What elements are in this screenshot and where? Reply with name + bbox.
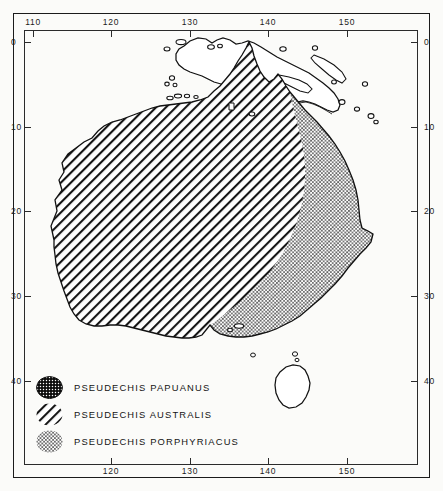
tick-label-right-10: 10: [424, 122, 435, 132]
tick-label-right-30: 30: [424, 291, 435, 301]
legend-item-porphyriacus: PSEUDECHIS PORPHYRIACUS: [36, 428, 276, 455]
tick-label-left-40: 40: [11, 376, 22, 386]
swatch-papuanus: [36, 376, 63, 399]
tick-label-top-120: 120: [103, 17, 119, 27]
swatch-porphyriacus: [36, 430, 63, 453]
tick-label-right-20: 20: [424, 206, 435, 216]
tick-label-top-140: 140: [260, 17, 276, 27]
legend-label-porphyriacus: PSEUDECHIS PORPHYRIACUS: [74, 436, 239, 447]
tick-label-right-40: 40: [424, 376, 435, 386]
tick-label-top-130: 130: [182, 17, 198, 27]
tick-label-bottom-150: 150: [339, 466, 355, 476]
tick-label-bottom-130: 130: [182, 466, 198, 476]
tick-label-top-150: 150: [339, 17, 355, 27]
tick-label-left-20: 20: [11, 206, 22, 216]
tasmania-outline: [275, 365, 310, 408]
tick-label-bottom-140: 140: [260, 466, 276, 476]
tick-label-right-0: 0: [424, 37, 429, 47]
legend-label-australis: PSEUDECHIS AUSTRALIS: [74, 409, 212, 420]
tick-label-left-30: 30: [11, 291, 22, 301]
bass-strait-islands: [251, 352, 299, 362]
legend-item-australis: PSEUDECHIS AUSTRALIS: [36, 401, 276, 428]
legend-label-papuanus: PSEUDECHIS PAPUANUS: [74, 382, 210, 393]
tick-label-left-0: 0: [11, 37, 16, 47]
gulf-notch: [229, 103, 234, 110]
swatch-australis: [36, 403, 63, 426]
map-legend: PSEUDECHIS PAPUANUS PSEUDECHIS AUSTRALIS…: [36, 374, 276, 455]
legend-item-papuanus: PSEUDECHIS PAPUANUS: [36, 374, 276, 401]
tick-label-bottom-120: 120: [103, 466, 119, 476]
distribution-map-figure: 110 120 130 140 150 120 130 140 150 0 10…: [0, 0, 443, 491]
tick-label-top-110: 110: [25, 17, 41, 27]
tick-label-left-10: 10: [11, 122, 22, 132]
